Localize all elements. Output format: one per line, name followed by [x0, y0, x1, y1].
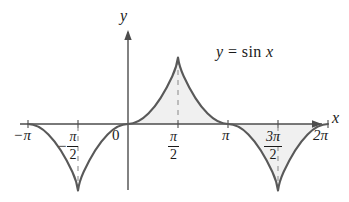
tick-label-minus-pi: −π — [14, 128, 31, 143]
y-axis-label: y — [120, 8, 127, 24]
minus-sign-pi: − — [14, 128, 22, 143]
fraction-denominator: 2 — [67, 147, 78, 163]
tick-label-three-pi-over-2: 3π 2 — [264, 130, 282, 162]
sine-graph-figure: y x y = sin x 0 −π − π 2 π 2 π 3π 2 2π — [0, 0, 349, 202]
tick-label-pi-over-2: π 2 — [168, 130, 179, 162]
fraction-numerator: 3π — [264, 130, 282, 147]
fraction-denominator: 2 — [168, 147, 179, 163]
tick-label-minus-pi-over-2: − π 2 — [58, 130, 78, 162]
fraction-three-pi-over-2: 3π 2 — [264, 130, 282, 162]
x-axis-label: x — [332, 110, 339, 126]
equation-operator: = — [228, 43, 237, 60]
y-axis-arrowhead — [124, 30, 131, 40]
origin-label: 0 — [112, 128, 120, 143]
equation-lhs: y — [216, 43, 224, 60]
equation-rhs: sin x — [242, 43, 274, 60]
fraction-pi-over-2: π 2 — [168, 130, 179, 162]
plot-canvas — [0, 0, 349, 202]
fraction-pi-over-2-left: π 2 — [67, 130, 78, 162]
fraction-denominator: 2 — [264, 147, 282, 163]
fraction-numerator: π — [168, 130, 179, 147]
pi-glyph-left: π — [23, 128, 31, 143]
tick-label-pi: π — [222, 128, 230, 143]
minus-sign-pi-over-2: − — [58, 139, 66, 154]
fraction-numerator: π — [67, 130, 78, 147]
equation-label: y = sin x — [216, 44, 274, 60]
tick-label-two-pi: 2π — [313, 128, 328, 143]
